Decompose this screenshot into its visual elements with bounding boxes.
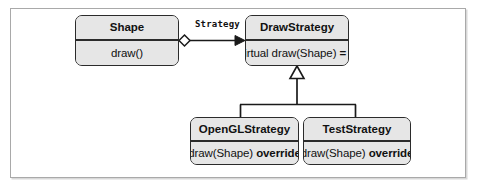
uml-member-openglstrategy-draw: draw(Shape) override bbox=[190, 147, 299, 159]
uml-member-prefix: draw(Shape) bbox=[303, 147, 369, 159]
uml-member-shape-draw: draw() bbox=[111, 47, 143, 59]
uml-member-suffix: = 0 bbox=[339, 47, 349, 59]
uml-members-drawstrategy: virtual draw(Shape) = 0 bbox=[246, 41, 348, 65]
uml-member-teststrategy-draw: draw(Shape) override bbox=[303, 147, 411, 159]
association-role-label: Strategy bbox=[195, 19, 240, 29]
uml-class-teststrategy[interactable]: TestStrategy draw(Shape) override bbox=[303, 117, 411, 165]
uml-class-diagram: Strategy Shape draw() DrawStrategy virtu… bbox=[0, 0, 480, 186]
uml-class-name-openglstrategy: OpenGLStrategy bbox=[191, 118, 298, 142]
uml-class-openglstrategy[interactable]: OpenGLStrategy draw(Shape) override bbox=[190, 117, 299, 165]
uml-members-openglstrategy: draw(Shape) override bbox=[191, 142, 298, 164]
uml-member-prefix: draw(Shape) bbox=[190, 147, 256, 159]
uml-class-name-teststrategy: TestStrategy bbox=[304, 118, 410, 142]
uml-member-suffix: override bbox=[256, 147, 299, 159]
uml-class-name-shape: Shape bbox=[76, 16, 178, 41]
uml-class-name-drawstrategy: DrawStrategy bbox=[246, 16, 348, 41]
uml-class-shape[interactable]: Shape draw() bbox=[75, 15, 179, 66]
uml-member-suffix: override bbox=[369, 147, 411, 159]
uml-members-teststrategy: draw(Shape) override bbox=[304, 142, 410, 164]
uml-class-drawstrategy[interactable]: DrawStrategy virtual draw(Shape) = 0 bbox=[245, 15, 349, 66]
uml-members-shape: draw() bbox=[76, 41, 178, 65]
uml-member-drawstrategy-draw: virtual draw(Shape) = 0 bbox=[245, 47, 349, 59]
uml-member-prefix: virtual draw(Shape) bbox=[245, 47, 339, 59]
